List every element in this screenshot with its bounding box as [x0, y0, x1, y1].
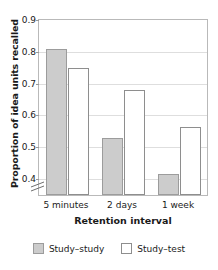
legend-swatch-study-study [33, 243, 44, 254]
legend-swatch-study-test [121, 243, 132, 254]
y-tick-mark [36, 52, 39, 53]
bar [68, 68, 89, 195]
bar [124, 90, 145, 195]
y-tick-label: 0.9 [22, 15, 36, 25]
y-tick-label: 0.6 [22, 110, 36, 120]
y-tick-mark [36, 20, 39, 21]
x-axis-title: Retention interval [38, 215, 208, 226]
bar-chart-figure: Proportion of idea units recalled 0.40.5… [0, 0, 218, 270]
y-tick-mark [36, 84, 39, 85]
bar [102, 138, 123, 195]
legend-label-study-test: Study–test [137, 244, 185, 254]
y-axis-title: Proportion of idea units recalled [9, 14, 20, 194]
chart-legend: Study–study Study–test [0, 243, 218, 254]
legend-item-study-study: Study–study [33, 243, 104, 254]
y-tick-mark [36, 147, 39, 148]
y-tick-label: 0.5 [22, 142, 36, 152]
legend-label-study-study: Study–study [49, 244, 104, 254]
plot-area: 0.40.50.60.70.80.9 [38, 19, 208, 196]
x-tick-label: 2 days [107, 200, 137, 210]
y-tick-mark [36, 115, 39, 116]
y-tick-label: 0.7 [22, 79, 36, 89]
y-tick-label: 0.8 [22, 47, 36, 57]
x-tick-label: 5 minutes [43, 200, 88, 210]
axis-break-icon [30, 178, 47, 194]
bar [180, 127, 201, 195]
bar [46, 49, 67, 195]
x-tick-label: 1 week [162, 200, 194, 210]
bar [158, 174, 179, 195]
legend-item-study-test: Study–test [121, 243, 185, 254]
